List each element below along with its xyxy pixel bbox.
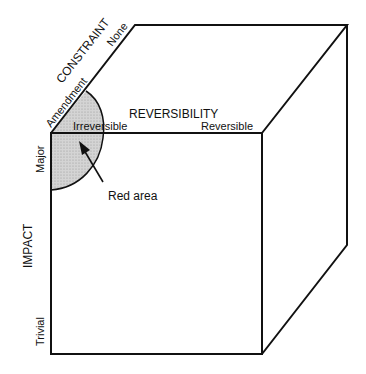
reversibility-high-label: Reversible	[201, 120, 253, 132]
right-face-edges	[262, 25, 347, 354]
cube-edges	[51, 25, 347, 354]
impact-low-label: Trivial	[34, 317, 46, 346]
constraint-axis-label: CONSTRAINT	[53, 15, 112, 86]
reversibility-axis-label: REVERSIBILITY	[129, 107, 218, 121]
red-area-label: Red area	[108, 189, 158, 203]
cube-diagram: Amendment CONSTRAINT None REVERSIBILITY …	[0, 0, 366, 374]
reversibility-low-label: Irreversible	[73, 120, 127, 132]
impact-high-label: Major	[34, 145, 46, 173]
impact-axis-label: IMPACT	[21, 223, 35, 268]
